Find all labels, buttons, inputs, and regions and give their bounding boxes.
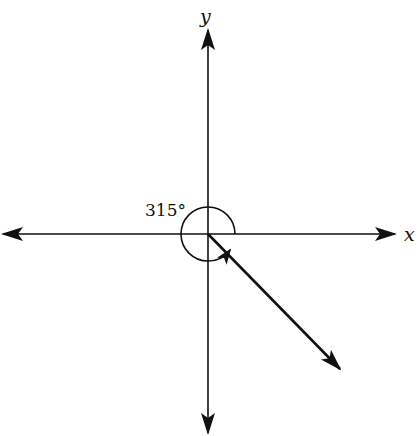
x-axis-label: x — [404, 223, 415, 245]
terminal-side-vector — [208, 234, 340, 369]
y-axis-label: y — [200, 5, 211, 27]
angle-label: 315° — [145, 200, 186, 220]
diagram-canvas — [0, 0, 420, 436]
